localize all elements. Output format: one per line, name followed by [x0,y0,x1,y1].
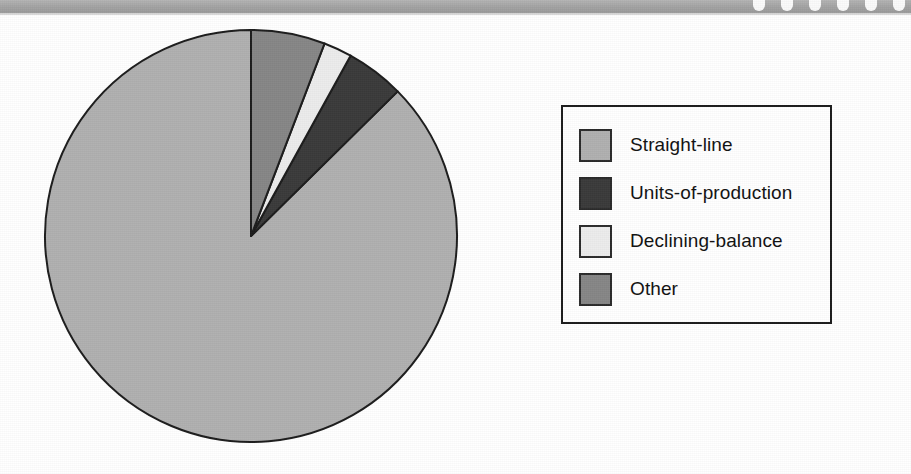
pie-slice-group [45,30,457,442]
chart-legend: Straight-line Units-of-production Declin… [561,105,832,324]
header-notch-icon [893,0,905,11]
legend-swatch-declining-balance [579,225,612,258]
legend-label-units-of-production: Units-of-production [630,182,792,204]
legend-label-straight-line: Straight-line [630,134,733,156]
legend-item-other[interactable]: Other [579,265,830,313]
header-notch-icon [865,0,877,11]
legend-item-declining-balance[interactable]: Declining-balance [579,217,830,265]
page-header-notch-group [711,0,911,13]
legend-label-other: Other [630,278,678,300]
figure-page: Straight-line Units-of-production Declin… [0,0,911,474]
header-notch-icon [781,0,793,11]
legend-swatch-straight-line [579,129,612,162]
legend-item-straight-line[interactable]: Straight-line [579,121,830,169]
legend-swatch-other [579,273,612,306]
legend-swatch-units-of-production [579,177,612,210]
header-notch-icon [809,0,821,11]
legend-label-declining-balance: Declining-balance [630,230,783,252]
legend-item-units-of-production[interactable]: Units-of-production [579,169,830,217]
header-notch-icon [837,0,849,11]
page-header-underline [0,13,911,15]
header-notch-icon [753,0,765,11]
page-header-strip [0,0,911,13]
